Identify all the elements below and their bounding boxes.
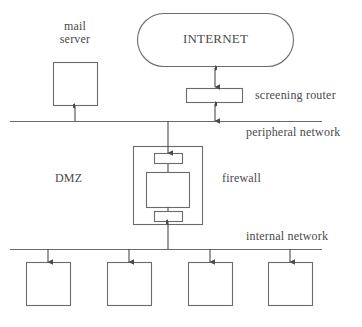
internet-label: INTERNET xyxy=(137,32,294,47)
firewall-outer-shape xyxy=(134,147,203,225)
mail-server-node-shape xyxy=(54,63,98,106)
host-4-shape xyxy=(269,263,313,306)
host-1-shape xyxy=(27,263,71,306)
firewall-top-port-shape xyxy=(155,154,183,164)
dmz-label: DMZ xyxy=(55,172,82,185)
peripheral-network-label: peripheral network xyxy=(246,126,341,139)
network-diagram: mail server INTERNET screening router pe… xyxy=(0,0,362,327)
mail-server-label-line2: server xyxy=(41,33,109,46)
internal-network-label: internal network xyxy=(246,230,328,243)
screening-router-label: screening router xyxy=(255,89,336,102)
firewall-bottom-port-shape xyxy=(155,212,183,222)
diagram-canvas xyxy=(0,0,362,327)
host-2-shape xyxy=(108,263,152,306)
host-3-shape xyxy=(189,263,233,306)
firewall-core-shape xyxy=(147,173,190,208)
firewall-label: firewall xyxy=(222,172,261,185)
screening-router-node-shape xyxy=(187,89,243,103)
